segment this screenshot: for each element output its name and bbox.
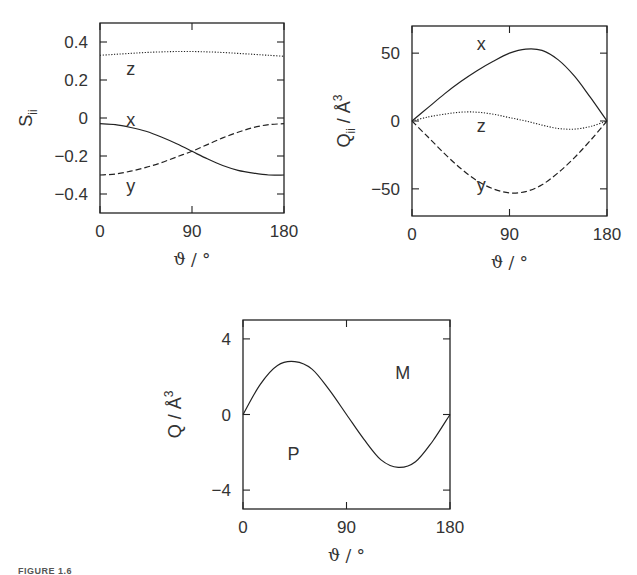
- x-tick-label: 0: [407, 225, 416, 244]
- x-tick-label: 90: [183, 222, 202, 241]
- series-y-label: y: [477, 175, 486, 195]
- series-x-line: [412, 49, 607, 121]
- x-tick-label: 0: [95, 222, 104, 241]
- x-tick-label: 180: [593, 225, 621, 244]
- series-z-label: z: [477, 116, 486, 136]
- x-axis-label: ϑ / °: [491, 252, 528, 272]
- y-tick-label: −0.4: [54, 185, 88, 204]
- y-tick-label: 0.2: [64, 71, 88, 90]
- annotation-M: M: [395, 363, 410, 383]
- y-tick-label: 50: [381, 44, 400, 63]
- x-tick-label: 180: [270, 222, 298, 241]
- y-tick-label: 0: [391, 112, 400, 131]
- series-z-label: z: [126, 59, 135, 79]
- series-z-line: [412, 112, 607, 129]
- series-z-line: [100, 51, 284, 56]
- x-tick-label: 90: [337, 518, 356, 537]
- y-axis-label: Sii: [16, 109, 40, 126]
- x-tick-label: 90: [500, 225, 519, 244]
- series-Q-line: [243, 361, 450, 467]
- plot-frame: [412, 26, 607, 216]
- y-tick-label: 4: [222, 330, 231, 349]
- series-y-line: [412, 121, 607, 193]
- series-y-line: [100, 124, 284, 175]
- y-axis-label: Q / Å3: [162, 390, 185, 438]
- x-axis-label: ϑ / °: [173, 249, 210, 269]
- y-tick-label: −50: [371, 180, 400, 199]
- y-tick-label: 0: [222, 406, 231, 425]
- y-tick-label: −4: [212, 481, 231, 500]
- figure-canvas: 0901800.40.20−0.2−0.4ϑ / °Siixyz09018050…: [0, 0, 637, 575]
- panel-total-quadrupole: 09018040−4ϑ / °Q / Å3MP: [162, 320, 464, 565]
- y-tick-label: 0: [79, 109, 88, 128]
- panel-quadrupole-components: 090180500−50ϑ / °Qii / Å3xyz: [331, 26, 621, 272]
- panel-order-parameter: 0901800.40.20−0.2−0.4ϑ / °Siixyz: [16, 23, 298, 269]
- x-tick-label: 180: [436, 518, 464, 537]
- series-y-label: y: [126, 176, 135, 196]
- y-axis-label: Qii / Å3: [331, 94, 358, 147]
- series-x-line: [100, 124, 284, 175]
- annotation-P: P: [288, 444, 300, 464]
- x-axis-label: ϑ / °: [328, 545, 365, 565]
- y-tick-label: −0.2: [54, 147, 88, 166]
- figure-caption: FIGURE 1.6: [18, 566, 72, 575]
- series-x-label: x: [477, 34, 486, 54]
- x-tick-label: 0: [238, 518, 247, 537]
- y-tick-label: 0.4: [64, 33, 88, 52]
- series-x-label: x: [126, 110, 135, 130]
